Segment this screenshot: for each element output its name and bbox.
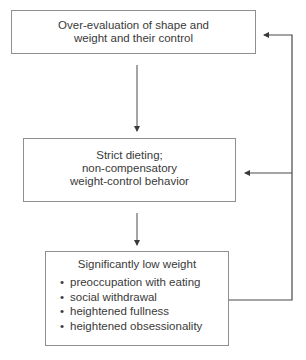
node-line: non-compensatory [24, 162, 235, 175]
node-line: weight and their control [12, 32, 255, 45]
node-line: Strict dieting; [24, 149, 235, 162]
node-overevaluation-text: Over-evaluation of shape and weight and … [12, 19, 255, 45]
node-overevaluation: Over-evaluation of shape and weight and … [11, 10, 256, 54]
node-low-weight-title: Significantly low weight [46, 258, 228, 271]
feedback-loop-lines [228, 35, 292, 300]
list-item: •heightened fullness [60, 304, 202, 319]
symptom-list: •preoccupation with eating •social withd… [60, 275, 202, 333]
node-strict-dieting-text: Strict dieting; non-compensatory weight-… [24, 149, 235, 188]
list-item: •preoccupation with eating [60, 275, 202, 290]
bullet-icon: • [60, 290, 70, 305]
node-low-weight: Significantly low weight •preoccupation … [45, 251, 229, 346]
node-line: weight-control behavior [24, 175, 235, 188]
list-item: •social withdrawal [60, 290, 202, 305]
list-item: •heightened obsessionality [60, 319, 202, 334]
bullet-icon: • [60, 275, 70, 290]
bullet-icon: • [60, 304, 70, 319]
node-line: Over-evaluation of shape and [12, 19, 255, 32]
bullet-icon: • [60, 319, 70, 334]
node-strict-dieting: Strict dieting; non-compensatory weight-… [23, 138, 236, 202]
